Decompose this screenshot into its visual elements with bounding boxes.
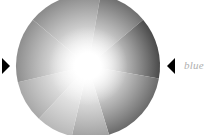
left-selector-marker-icon[interactable] (2, 58, 10, 74)
selected-color-label: blue (184, 58, 204, 72)
right-selector-marker-icon[interactable] (167, 58, 175, 74)
center-glow (48, 26, 127, 105)
color-wheel-picker: blue (0, 0, 213, 135)
color-wheel[interactable] (0, 0, 213, 135)
